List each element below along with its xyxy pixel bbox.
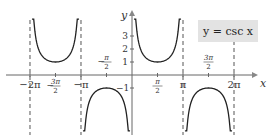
svg-text:2: 2 — [206, 63, 210, 71]
y-tick-label: 3 — [122, 31, 128, 41]
fraction-tick-label: −3π2 — [46, 78, 60, 95]
x-tick-label: −π — [74, 79, 89, 90]
x-axis-label: x — [260, 77, 267, 90]
function-label-text: y = csc x — [203, 25, 253, 38]
csc-branch — [134, 19, 181, 62]
svg-text:2: 2 — [104, 63, 108, 71]
csc-branch — [83, 88, 130, 131]
svg-text:2: 2 — [155, 87, 159, 95]
y-axis-label: y — [120, 9, 128, 22]
function-label: y = csc x — [198, 20, 258, 42]
y-tick-label: 2 — [122, 44, 128, 54]
csc-branch — [185, 88, 232, 131]
fraction-tick-label: 3π2 — [204, 54, 214, 71]
fraction-tick-label: π2 — [153, 78, 163, 95]
x-tick-label: −2π — [19, 79, 41, 90]
x-tick-label: 2π — [228, 79, 241, 90]
svg-text:π: π — [103, 54, 109, 62]
svg-text:3π: 3π — [204, 54, 213, 62]
fraction-tick-label: −π2 — [97, 54, 111, 71]
svg-text:π: π — [154, 78, 160, 86]
svg-text:3π: 3π — [51, 78, 60, 86]
csc-branch — [32, 19, 79, 62]
svg-text:2: 2 — [53, 87, 57, 95]
y-tick-label: 1 — [122, 57, 128, 67]
y-tick-label: −1 — [116, 83, 129, 93]
y-axis-arrow-icon — [129, 10, 135, 16]
x-axis-arrow-icon — [252, 72, 258, 78]
x-tick-label: π — [180, 79, 187, 90]
